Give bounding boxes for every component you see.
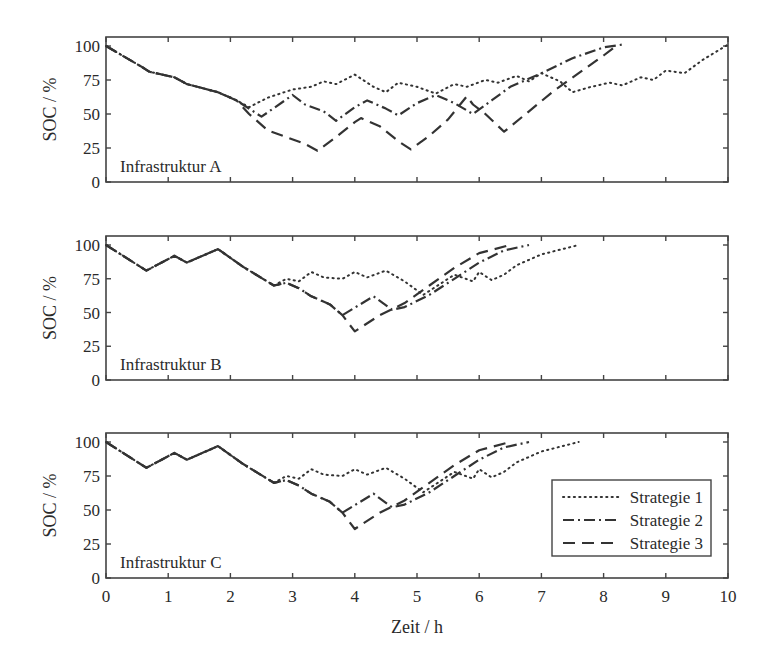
legend-entry: Strategie 3: [630, 534, 703, 553]
panel-label: Infrastruktur C: [120, 553, 222, 572]
series-strategie-1: [106, 45, 728, 108]
y-tick-label: 75: [83, 270, 100, 289]
soc-chart-figure: 0255075100SOC / %Infrastruktur A02550751…: [0, 0, 773, 664]
x-tick-label: 0: [102, 587, 111, 606]
x-tick-label: 1: [164, 587, 173, 606]
y-tick-label: 0: [92, 569, 101, 588]
panel-b: 0255075100SOC / %Infrastruktur B: [40, 236, 728, 390]
y-tick-label: 25: [83, 139, 100, 158]
y-tick-label: 100: [75, 433, 101, 452]
series-strategie-2: [106, 442, 529, 513]
y-tick-label: 100: [75, 37, 101, 56]
x-tick-label: 6: [475, 587, 484, 606]
y-tick-label: 75: [83, 71, 100, 90]
series-strategie-3: [106, 46, 616, 151]
y-axis-label: SOC / %: [40, 473, 60, 537]
y-tick-label: 50: [83, 501, 100, 520]
y-axis-label: SOC / %: [40, 276, 60, 340]
series-strategie-2: [106, 245, 529, 315]
y-tick-label: 75: [83, 467, 100, 486]
panel-c: 0255075100SOC / %Infrastruktur C01234567…: [40, 433, 737, 637]
series-strategie-3: [106, 442, 510, 529]
panel-label: Infrastruktur A: [120, 157, 222, 176]
x-tick-label: 8: [599, 587, 608, 606]
panel-a: 0255075100SOC / %Infrastruktur A: [40, 37, 728, 192]
y-axis-label: SOC / %: [40, 77, 60, 141]
y-tick-label: 0: [92, 371, 101, 390]
x-axis-label: Zeit / h: [391, 617, 443, 637]
series-strategie-1: [106, 442, 579, 492]
panel-label: Infrastruktur B: [120, 355, 222, 374]
legend: Strategie 1Strategie 2Strategie 3: [552, 480, 711, 556]
x-tick-label: 7: [537, 587, 546, 606]
x-tick-label: 3: [288, 587, 297, 606]
y-tick-label: 25: [83, 535, 100, 554]
x-tick-label: 5: [413, 587, 422, 606]
y-tick-label: 25: [83, 337, 100, 356]
x-tick-label: 9: [662, 587, 671, 606]
y-tick-label: 0: [92, 173, 101, 192]
y-tick-label: 50: [83, 304, 100, 323]
legend-entry: Strategie 1: [630, 488, 703, 507]
y-tick-label: 100: [75, 236, 101, 255]
x-tick-label: 2: [226, 587, 235, 606]
x-tick-label: 4: [351, 587, 360, 606]
series-strategie-3: [106, 245, 510, 331]
y-tick-label: 50: [83, 105, 100, 124]
x-tick-label: 10: [720, 587, 737, 606]
series-strategie-1: [106, 245, 579, 295]
legend-entry: Strategie 2: [630, 511, 703, 530]
